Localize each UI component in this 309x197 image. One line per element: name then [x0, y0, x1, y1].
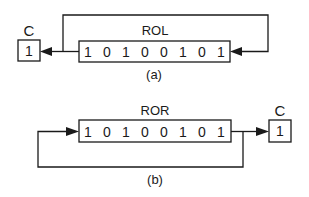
arrow-right-icon	[66, 127, 79, 136]
operation-label-ror: ROR	[141, 103, 170, 118]
bit: 0	[198, 44, 206, 60]
caption-a: (a)	[146, 67, 162, 82]
bit: 1	[217, 44, 225, 60]
carry-value-b: 1	[276, 123, 284, 139]
rol-diagram: C 1 ROL 1 0 1 0 0 1 0 1 (a)	[18, 15, 268, 82]
bit: 0	[141, 44, 149, 60]
carry-label-a: C	[24, 22, 35, 39]
bit: 0	[160, 124, 168, 140]
bit: 1	[84, 124, 92, 140]
register-a	[79, 41, 230, 62]
arrow-left-icon	[230, 47, 242, 56]
carry-label-b: C	[275, 102, 286, 119]
bit: 0	[160, 44, 168, 60]
bit: 1	[122, 124, 130, 140]
bit: 0	[198, 124, 206, 140]
carry-value-a: 1	[25, 43, 33, 59]
bit: 0	[103, 124, 111, 140]
bit: 0	[141, 124, 149, 140]
rotate-diagram: C 1 ROL 1 0 1 0 0 1 0 1 (a) ROR 1 0 1 0	[0, 0, 309, 197]
bit: 1	[122, 44, 130, 60]
bit: 1	[84, 44, 92, 60]
bit: 1	[179, 44, 187, 60]
register-b	[79, 120, 231, 142]
arrow-left-icon	[40, 47, 52, 56]
arrow-right-icon	[256, 127, 269, 136]
bit: 0	[103, 44, 111, 60]
caption-b: (b)	[147, 172, 163, 187]
operation-label-rol: ROL	[142, 23, 169, 38]
bit: 1	[217, 124, 225, 140]
ror-diagram: ROR 1 0 1 0 0 1 0 1 C 1 (b)	[38, 102, 291, 187]
bit: 1	[179, 124, 187, 140]
